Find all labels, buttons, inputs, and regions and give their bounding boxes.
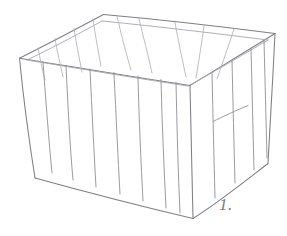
front-left-slat-6: [161, 80, 166, 209]
box-sketch-figure: [0, 0, 287, 236]
corner-vertical-front: [190, 86, 193, 219]
sketch-ink-group: [20, 15, 276, 219]
rim-edge-front-left: [20, 58, 191, 85]
front-right-slat-2: [232, 61, 235, 184]
rim-inner-back-right: [102, 21, 268, 40]
front-right-slat-4: [264, 41, 267, 159]
front-right-panel-slats: [212, 41, 267, 199]
front-left-slat-3: [90, 69, 96, 187]
inner-back-slat-2: [139, 19, 152, 74]
inner-back-slat-3: [175, 23, 186, 78]
inner-back-slat-5: [217, 29, 234, 79]
front-left-slat-2: [66, 66, 73, 181]
top-rim-outer: [20, 15, 276, 86]
bottom-edge-left: [35, 178, 193, 219]
corner-verticals: [20, 34, 276, 219]
corner-vertical-left: [20, 58, 36, 178]
front-right-slat-3: [251, 49, 254, 171]
rim-inner-back-left: [27, 21, 102, 60]
front-right-slat-1: [212, 73, 215, 199]
front-left-slat-4: [114, 73, 120, 195]
inner-left-slat-2: [74, 29, 82, 73]
right-panel-crossbar: [213, 106, 248, 122]
front-left-slat-5: [138, 76, 143, 201]
inner-back-slat-4: [196, 26, 204, 79]
front-left-slat-7: [176, 82, 180, 213]
inner-left-slat-1: [93, 19, 101, 66]
front-left-slat-1: [43, 62, 52, 173]
front-left-panel-slats: [43, 62, 180, 213]
crossbar-line: [213, 106, 248, 122]
bottom-edges: [35, 164, 268, 219]
figure-caption-number: 1.: [219, 195, 233, 215]
rim-edge-back-left: [20, 15, 104, 59]
corner-vertical-right: [268, 34, 275, 164]
rim-inner-front-left: [27, 60, 188, 86]
